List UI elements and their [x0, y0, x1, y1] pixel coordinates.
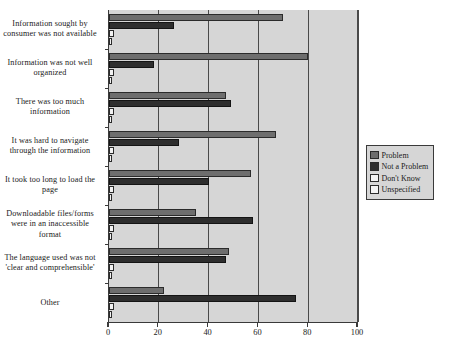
category-tick	[105, 166, 109, 167]
legend-swatch-icon	[370, 151, 379, 160]
bar-dontknow	[109, 303, 114, 310]
bar-unspecified	[109, 233, 112, 240]
legend-item[interactable]: Problem	[370, 150, 428, 161]
bar-unspecified	[109, 155, 112, 162]
x-tick-0	[107, 322, 108, 327]
legend-label: Unspecified	[382, 185, 421, 194]
legend-label: Don't Know	[382, 174, 421, 183]
bar-problem	[109, 287, 164, 294]
x-axis-tick-labels: 020406080100	[0, 328, 459, 344]
category-label: It took too long to load the page	[0, 175, 100, 196]
legend-item[interactable]: Don't Know	[370, 173, 428, 184]
x-tick-20	[157, 322, 158, 327]
legend-item[interactable]: Unspecified	[370, 184, 428, 195]
bar-chart: Information sought by consumer was not a…	[0, 0, 459, 354]
bar-problem	[109, 248, 229, 255]
bar-dontknow	[109, 225, 114, 232]
bar-problem	[109, 170, 251, 177]
bar-notproblem	[109, 61, 154, 68]
x-tick-label: 100	[351, 328, 364, 337]
bar-notproblem	[109, 139, 179, 146]
bar-problem	[109, 131, 276, 138]
category-label: It was hard to navigate through the info…	[0, 136, 100, 157]
bar-unspecified	[109, 38, 112, 45]
category-tick	[105, 127, 109, 128]
gridline-100	[357, 10, 358, 322]
bar-dontknow	[109, 186, 114, 193]
category-label: The language used was not 'clear and com…	[0, 253, 100, 274]
bar-dontknow	[109, 69, 114, 76]
legend-swatch-icon	[370, 162, 379, 171]
legend-label: Problem	[382, 151, 409, 160]
bar-notproblem	[109, 22, 174, 29]
bar-dontknow	[109, 264, 114, 271]
category-label: Other	[0, 298, 100, 308]
bar-unspecified	[109, 272, 112, 279]
category-tick	[105, 88, 109, 89]
bar-dontknow	[109, 147, 114, 154]
bar-unspecified	[109, 77, 112, 84]
bar-problem	[109, 92, 226, 99]
legend-label: Not a Problem	[382, 162, 429, 171]
x-tick-80	[307, 322, 308, 327]
x-tick-label: 20	[154, 328, 162, 337]
legend-item[interactable]: Not a Problem	[370, 161, 428, 172]
x-tick-label: 60	[253, 328, 261, 337]
x-tick-100	[356, 322, 357, 327]
legend-swatch-icon	[370, 185, 379, 194]
x-tick-60	[257, 322, 258, 327]
x-tick-label: 0	[106, 328, 110, 337]
category-tick	[105, 205, 109, 206]
bar-notproblem	[109, 100, 231, 107]
bar-notproblem	[109, 256, 226, 263]
bar-dontknow	[109, 108, 114, 115]
legend-swatch-icon	[370, 174, 379, 183]
category-tick	[105, 283, 109, 284]
bar-notproblem	[109, 295, 296, 302]
category-tick	[105, 49, 109, 50]
bar-notproblem	[109, 178, 209, 185]
bar-dontknow	[109, 30, 114, 37]
bar-unspecified	[109, 116, 112, 123]
x-tick-label: 80	[303, 328, 311, 337]
category-label: Information was not well organized	[0, 58, 100, 79]
bar-problem	[109, 53, 308, 60]
chart-legend: ProblemNot a ProblemDon't KnowUnspecifie…	[366, 145, 434, 200]
category-label: There was too much information	[0, 97, 100, 118]
bar-problem	[109, 209, 196, 216]
plot-inner	[109, 10, 358, 322]
category-label: Information sought by consumer was not a…	[0, 19, 100, 40]
category-label: Downloadable files/forms were in an inac…	[0, 209, 100, 240]
bar-notproblem	[109, 217, 253, 224]
category-axis-labels: Information sought by consumer was not a…	[0, 10, 104, 322]
category-tick	[105, 244, 109, 245]
x-tick-label: 40	[203, 328, 211, 337]
bar-problem	[109, 14, 283, 21]
bar-unspecified	[109, 311, 112, 318]
bar-unspecified	[109, 194, 112, 201]
x-tick-40	[207, 322, 208, 327]
plot-area	[108, 10, 358, 323]
